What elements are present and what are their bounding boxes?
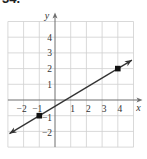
x-tick-label: 4	[117, 104, 122, 114]
coordinate-plane: xy−2−112344321−1−2	[0, 0, 147, 159]
x-axis-label: x	[135, 102, 141, 113]
y-tick-label: −1	[42, 113, 52, 123]
x-tick-label: 3	[102, 104, 107, 114]
y-tick-label: 1	[47, 80, 52, 90]
y-tick-label: −2	[42, 128, 52, 138]
y-axis-label: y	[44, 10, 50, 21]
y-tick-label: 2	[47, 64, 52, 74]
x-tick-label: 2	[86, 104, 91, 114]
y-tick-label: 4	[47, 33, 52, 43]
y-tick-label: 3	[47, 48, 52, 58]
line-arrow-end-icon	[124, 58, 133, 67]
data-point	[37, 113, 43, 119]
x-tick-label: 1	[70, 104, 75, 114]
data-point	[115, 66, 121, 72]
x-tick-label: −2	[17, 104, 27, 114]
